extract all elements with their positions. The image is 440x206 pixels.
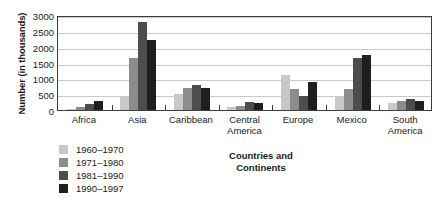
bar [236,106,245,110]
y-axis-tick-labels: 050010001500200025003000 [16,16,54,111]
legend-swatch [59,145,68,154]
x-axis-title-line-1: Countries and [229,150,293,161]
chart-legend: 1960–19701971–19801981–19901990–1997 [59,143,124,195]
bar [201,88,210,110]
x-axis-category-label-line: Central [229,114,260,125]
legend-item: 1981–1990 [59,169,124,182]
bar [85,104,94,110]
legend-swatch [59,158,68,167]
legend-swatch [59,184,68,193]
y-axis-tick-label: 2500 [33,26,54,37]
bar [174,94,183,110]
legend-label: 1981–1990 [76,170,124,181]
bar [344,89,353,110]
legend-item: 1971–1980 [59,156,124,169]
bar [388,103,397,110]
bar [397,101,406,110]
x-axis-category-label-line: Caribbean [169,114,213,125]
x-axis-category-label-line: America [388,125,423,136]
x-axis-category-label: Africa [57,114,111,125]
x-axis-title: Countries andContinents [186,150,336,174]
x-axis-category-label: Europe [271,114,325,125]
legend-label: 1971–1980 [76,157,124,168]
bar-chart-figure: Number (in thousands) 050010001500200025… [0,0,440,206]
legend-label: 1960–1970 [76,144,124,155]
legend-item: 1960–1970 [59,143,124,156]
bar-group [326,17,380,110]
x-axis-category-label: Mexico [325,114,379,125]
bar [290,89,299,110]
x-axis-category-label-line: Mexico [337,114,367,125]
y-axis-tick-label: 0 [49,106,54,117]
y-axis-tick-label: 3000 [33,11,54,22]
x-axis-category-label: SouthAmerica [378,114,432,136]
x-axis-category-label-line: South [393,114,418,125]
x-axis-category-label-line: Africa [72,114,96,125]
bar-group [112,17,166,110]
legend-item: 1990–1997 [59,182,124,195]
bar [129,58,138,110]
bar [147,40,156,110]
y-axis-tick-label: 2000 [33,42,54,53]
bar-group [165,17,219,110]
bar [406,99,415,110]
bar [120,97,129,110]
bar-group [272,17,326,110]
x-axis-category-label-line: Asia [128,114,146,125]
bar [335,96,344,110]
bar-group [379,17,433,110]
bar [183,88,192,110]
x-axis-category-label-line: Europe [283,114,314,125]
y-axis-tick-label: 500 [38,90,54,101]
bar [138,22,147,110]
bar [227,107,236,110]
bar [94,101,103,110]
legend-label: 1990–1997 [76,183,124,194]
x-axis-category-labels: AfricaAsiaCaribbeanCentralAmericaEuropeM… [57,114,432,144]
y-axis-tick-label: 1500 [33,58,54,69]
bar [299,96,308,110]
bar [67,109,76,110]
bar [281,75,290,110]
bar [415,101,424,110]
x-axis-category-label: Caribbean [164,114,218,125]
bar [76,107,85,110]
bar [254,103,263,110]
x-axis-title-line-2: Continents [236,162,286,173]
x-axis-category-label-line: America [227,125,262,136]
legend-swatch [59,171,68,180]
bar-group [219,17,273,110]
bar [192,85,201,110]
y-axis-tick-label: 1000 [33,74,54,85]
bar [245,102,254,110]
bar-group [58,17,112,110]
bar [353,58,362,110]
x-axis-category-label: Asia [111,114,165,125]
bars-layer [58,17,431,110]
bar [362,55,371,110]
plot-area [57,16,432,111]
bar [308,82,317,111]
x-axis-category-label: CentralAmerica [218,114,272,136]
